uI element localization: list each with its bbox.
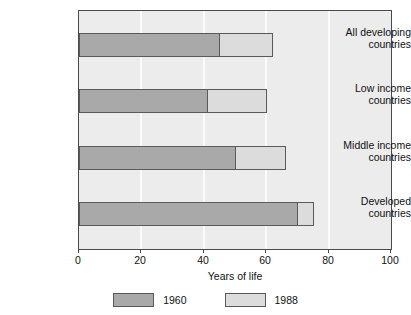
legend-entry-1988: 1988 — [225, 293, 298, 307]
x-tick-label-0: 0 — [58, 254, 98, 266]
legend-swatch-1960 — [113, 293, 154, 307]
legend-swatch-1988 — [225, 293, 266, 307]
x-tick-mark-60 — [265, 249, 266, 253]
legend-label-1960: 1960 — [163, 294, 186, 306]
category-label-developed-countries: Developed countries — [337, 195, 411, 219]
category-label-line-2: countries — [337, 207, 411, 219]
bar-segment-1988-middle-income-countries — [235, 146, 286, 170]
x-tick-mark-0 — [78, 249, 79, 253]
category-label-line-2: countries — [337, 38, 411, 50]
chart-legend: 1960 1988 — [0, 288, 411, 312]
x-tick-mark-20 — [140, 249, 141, 253]
category-label-line-1: Developed — [337, 195, 411, 207]
x-axis-title: Years of life — [78, 270, 392, 282]
legend-label-1988: 1988 — [275, 294, 298, 306]
legend-entry-1960: 1960 — [113, 293, 186, 307]
category-label-all-developing-countries: All developing countries — [337, 26, 411, 50]
x-tick-label-80: 80 — [308, 254, 348, 266]
bar-segment-1988-low-income-countries — [207, 89, 267, 113]
category-label-line-1: Middle income — [337, 139, 411, 151]
x-tick-label-100: 100 — [370, 254, 410, 266]
bar-segment-1960-low-income-countries — [79, 89, 208, 113]
category-label-line-2: countries — [337, 94, 411, 106]
category-label-line-1: Low income — [337, 82, 411, 94]
x-tick-mark-80 — [328, 249, 329, 253]
bar-chart-life-expectancy: All developing countries Low income coun… — [0, 0, 411, 315]
x-tick-mark-100 — [390, 249, 391, 253]
bar-segment-1960-all-developing-countries — [79, 33, 220, 57]
gridline-80 — [328, 11, 330, 249]
x-tick-label-60: 60 — [245, 254, 285, 266]
category-label-line-1: All developing — [337, 26, 411, 38]
bar-segment-1960-developed-countries — [79, 202, 298, 226]
category-label-middle-income-countries: Middle income countries — [337, 139, 411, 163]
bar-segment-1960-middle-income-countries — [79, 146, 236, 170]
x-axis: 0 20 40 60 80 100 Years of life — [78, 249, 392, 289]
x-tick-mark-40 — [203, 249, 204, 253]
category-label-line-2: countries — [337, 151, 411, 163]
bar-segment-1988-developed-countries — [297, 202, 314, 226]
x-tick-label-20: 20 — [120, 254, 160, 266]
bar-segment-1988-all-developing-countries — [219, 33, 273, 57]
x-tick-label-40: 40 — [183, 254, 223, 266]
category-label-low-income-countries: Low income countries — [337, 82, 411, 106]
